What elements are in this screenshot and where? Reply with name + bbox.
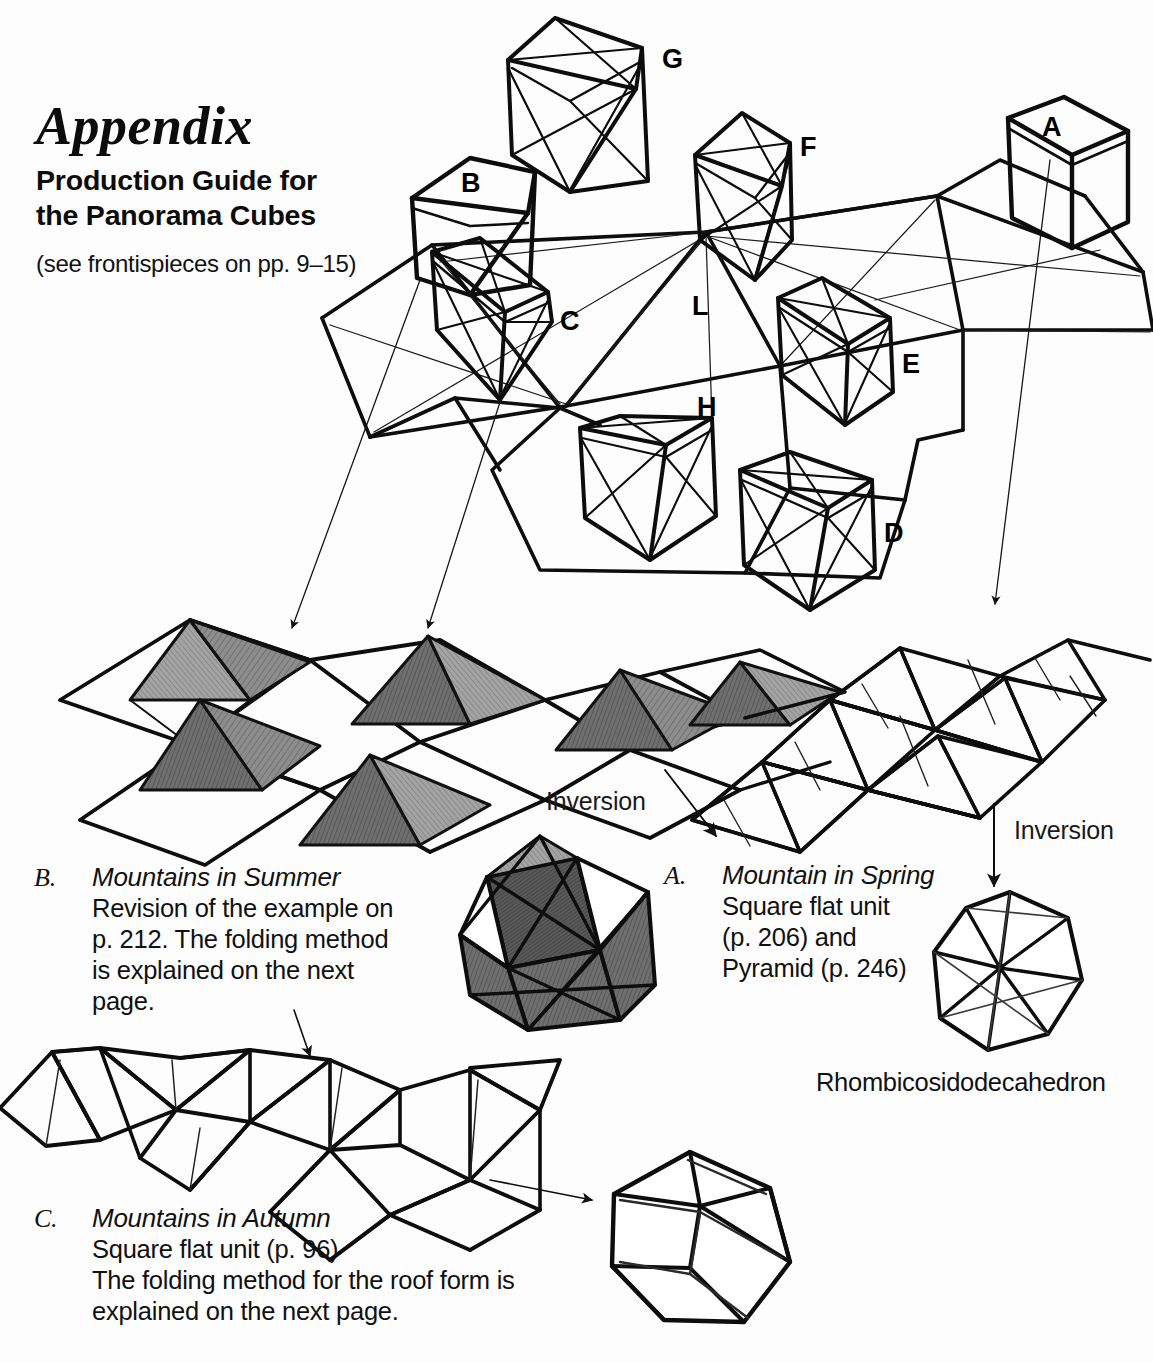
caption-mountains-in-autumn: C. Mountains in Autumn Square flat unit … [34, 1203, 654, 1327]
caption-c-line-3: explained on the next page. [92, 1296, 654, 1327]
cube-label-e: E [902, 349, 920, 380]
cube-G [508, 18, 648, 192]
cube-label-h: H [697, 392, 717, 423]
caption-a-marker: A. [664, 860, 686, 891]
caption-b-line-2: p. 212. The folding method [92, 924, 434, 955]
caption-c-marker: C. [34, 1203, 57, 1234]
inversion-label-right: Inversion [1014, 816, 1114, 845]
cube-label-c: C [560, 306, 580, 337]
caption-a-line-1: Square flat unit [722, 891, 994, 922]
inversion-label-left: Inversion [546, 787, 646, 816]
cube-F [695, 113, 792, 280]
caption-mountain-in-spring: A. Mountain in Spring Square flat unit (… [664, 860, 994, 984]
caption-c-heading: Mountains in Autumn [92, 1203, 654, 1234]
cube-label-g: G [662, 44, 683, 75]
page-subtitle: Production Guide for the Panorama Cubes [36, 163, 317, 233]
appendix-page: Appendix Production Guide for the Panora… [0, 0, 1153, 1363]
pointer-lines [292, 160, 1050, 628]
caption-b-marker: B. [34, 862, 56, 893]
net-right-flap [937, 160, 1143, 272]
caption-b-line-4: page. [92, 986, 434, 1017]
caption-c-line-1: Square flat unit (p. 96) [92, 1234, 654, 1265]
cube-H [580, 416, 716, 560]
polyhedron-name-label: Rhombicosidodecahedron [816, 1068, 1106, 1097]
caption-b-line-1: Revision of the example on [92, 893, 434, 924]
caption-a-line-3: Pyramid (p. 246) [722, 953, 994, 984]
caption-a-heading: Mountain in Spring [722, 860, 994, 891]
page-subtitle-line1: Production Guide for [36, 163, 317, 198]
cube-label-l: L [692, 291, 709, 322]
cube-D [740, 452, 875, 610]
page-subtitle-note: (see frontispieces on pp. 9–15) [36, 250, 356, 278]
page-title: Appendix [36, 95, 253, 157]
caption-a-line-2: (p. 206) and [722, 922, 994, 953]
page-subtitle-line2: the Panorama Cubes [36, 198, 317, 233]
caption-c-line-2: The folding method for the roof form is [92, 1265, 654, 1296]
cube-label-b: B [461, 168, 481, 199]
cube-label-a: A [1042, 112, 1062, 143]
autumn-arrows [294, 1010, 592, 1200]
caption-b-line-3: is explained on the next [92, 955, 434, 986]
caption-c-arrow [290, 1010, 340, 1060]
caption-b-heading: Mountains in Summer [92, 862, 434, 893]
summer-pyramids [130, 620, 840, 845]
cube-label-f: F [800, 132, 817, 163]
poly-summer [460, 836, 655, 1030]
caption-mountains-in-summer: B. Mountains in Summer Revision of the e… [34, 862, 434, 1017]
cube-label-d: D [884, 518, 904, 549]
